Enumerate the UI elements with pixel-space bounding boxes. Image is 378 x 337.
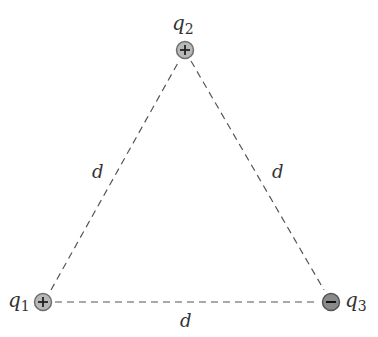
side-q2-q3 <box>191 61 324 290</box>
side-q1-q2 <box>51 61 179 290</box>
charge-q3: q3 <box>323 288 367 314</box>
charge-label-q1: q1 <box>8 288 30 314</box>
side-label-right: d <box>272 161 284 182</box>
charge-triangle-diagram: d d d q2 q1 q3 <box>0 0 378 337</box>
side-label-left: d <box>92 161 104 182</box>
charge-q2: q2 <box>172 11 194 59</box>
charge-q1: q1 <box>8 288 52 314</box>
charge-label-q3: q3 <box>345 288 367 314</box>
charge-label-q2: q2 <box>172 11 194 37</box>
side-label-bottom: d <box>180 310 192 331</box>
